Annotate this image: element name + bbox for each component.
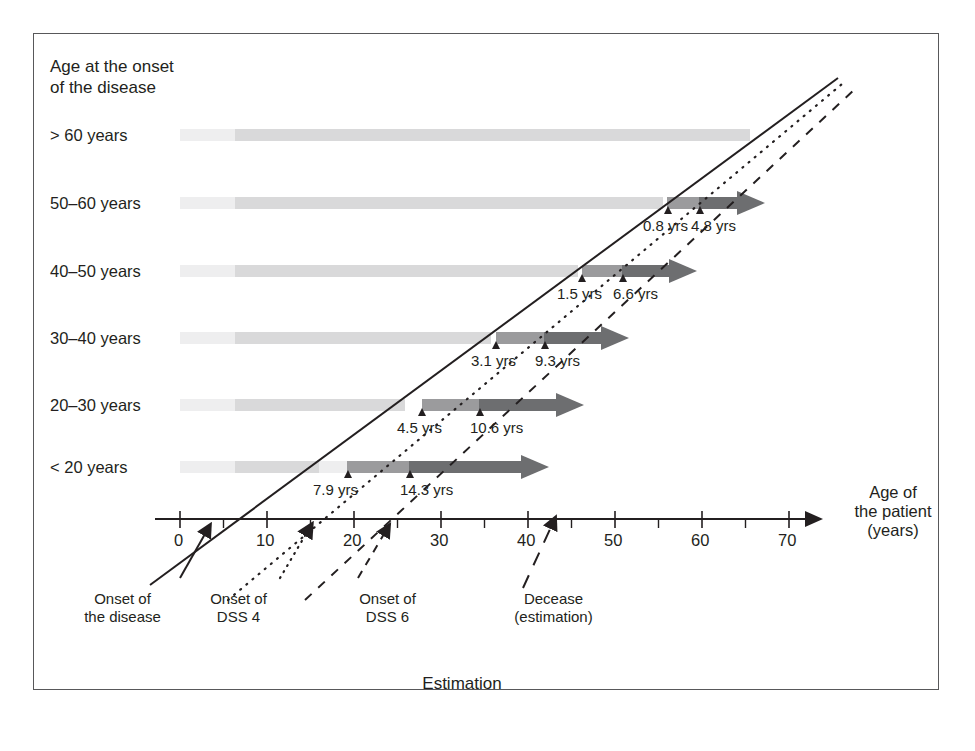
y-axis-header: Age at the onsetof the disease	[50, 56, 174, 98]
legend-decease-line2: (estimation)	[514, 608, 592, 625]
bar-row-30-40	[180, 326, 629, 350]
pointer-onset-disease	[180, 534, 205, 578]
bar-fade-segment-2	[319, 461, 347, 473]
category-label-gt60: > 60 years	[50, 126, 128, 145]
annotation-lt20-dss6: 14.3 yrs	[400, 481, 453, 498]
bar-arrow-head	[556, 393, 584, 417]
tick-label-70: 70	[778, 531, 796, 550]
legend-onset-dss6-line1: Onset of	[359, 590, 416, 607]
tick-label-30: 30	[430, 531, 448, 550]
reference-line-dss6	[305, 90, 854, 600]
category-label-40-50: 40–50 years	[50, 262, 141, 281]
bar-light-segment	[180, 197, 663, 209]
category-label-lt20: < 20 years	[50, 458, 128, 477]
bar-light-segment	[180, 265, 578, 277]
legend-onset-disease: Onset ofthe disease	[55, 590, 190, 626]
bar-fade-segment	[180, 461, 235, 473]
category-label-30-40: 30–40 years	[50, 329, 141, 348]
bar-dark-segment	[544, 332, 601, 344]
legend-decease-line1: Decease	[524, 590, 583, 607]
legend-onset-dss4: Onset ofDSS 4	[171, 590, 306, 626]
tick-label-10: 10	[256, 531, 274, 550]
x-axis	[155, 511, 805, 528]
annotation-20-30-dss4: 4.5 yrs	[397, 419, 442, 436]
x-axis-title-line3: (years)	[867, 521, 918, 539]
legend-onset-dss4-line1: Onset of	[210, 590, 267, 607]
bar-dark-segment	[622, 265, 669, 277]
bar-light-segment	[180, 129, 750, 141]
tick-label-60: 60	[691, 531, 709, 550]
tick-label-50: 50	[604, 531, 622, 550]
bar-fade-segment	[180, 129, 235, 141]
y-axis-header-line1: Age at the onset	[50, 57, 174, 76]
legend-onset-dss6-line2: DSS 6	[366, 608, 409, 625]
category-label-50-60: 50–60 years	[50, 194, 141, 213]
bar-arrow-head	[601, 326, 629, 350]
bar-fade-segment	[180, 197, 235, 209]
x-axis-title: Age ofthe patient(years)	[828, 483, 958, 540]
pointer-dss6	[358, 534, 384, 578]
annotation-40-50-dss4: 1.5 yrs	[557, 285, 602, 302]
category-label-20-30: 20–30 years	[50, 396, 141, 415]
bar-mid-segment	[347, 461, 409, 473]
annotation-50-60-dss4: 0.8 yrs	[643, 217, 688, 234]
bar-row-gt60	[180, 129, 750, 141]
annotation-40-50-dss6: 6.6 yrs	[613, 285, 658, 302]
bar-dark-segment	[479, 399, 556, 411]
tick-label-0: 0	[174, 531, 183, 550]
bar-row-lt20	[180, 455, 549, 479]
pointer-dss4	[280, 534, 306, 578]
legend-onset-dss4-line2: DSS 4	[217, 608, 260, 625]
bar-fade-segment	[180, 265, 235, 277]
figure-caption: Estimation	[337, 674, 587, 694]
legend-decease: Decease(estimation)	[486, 590, 621, 626]
bar-row-50-60	[180, 191, 765, 215]
bar-fade-segment	[180, 332, 235, 344]
bar-dark-segment	[409, 461, 521, 473]
annotation-50-60-dss6: 4.8 yrs	[691, 217, 736, 234]
bar-arrow-head	[521, 455, 549, 479]
x-axis-title-line1: Age of	[869, 483, 917, 501]
legend-onset-disease-line1: Onset of	[94, 590, 151, 607]
bar-mid-segment	[496, 332, 544, 344]
annotation-30-40-dss4: 3.1 yrs	[471, 352, 516, 369]
bar-fade-segment	[180, 399, 235, 411]
tick-label-20: 20	[343, 531, 361, 550]
bar-mid-segment	[582, 265, 622, 277]
bar-mid-segment	[422, 399, 479, 411]
annotation-20-30-dss6: 10.6 yrs	[470, 419, 523, 436]
estimation-chart	[0, 0, 975, 751]
bar-arrow-head	[669, 259, 697, 283]
legend-onset-dss6: Onset ofDSS 6	[320, 590, 455, 626]
legend-onset-disease-line2: the disease	[84, 608, 161, 625]
annotation-lt20-dss4: 7.9 yrs	[313, 481, 358, 498]
reference-line-onset-disease	[150, 78, 838, 585]
tick-label-40: 40	[517, 531, 535, 550]
annotation-30-40-dss6: 9.3 yrs	[535, 352, 580, 369]
y-axis-header-line2: of the disease	[50, 78, 156, 97]
x-axis-title-line2: the patient	[854, 502, 931, 520]
